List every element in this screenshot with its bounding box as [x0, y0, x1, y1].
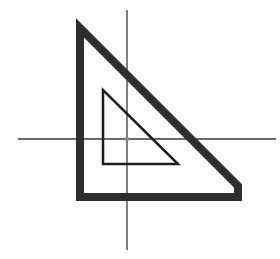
- inner-triangle: [103, 90, 178, 164]
- origin-point: [125, 137, 129, 141]
- diagram-canvas: [0, 0, 280, 259]
